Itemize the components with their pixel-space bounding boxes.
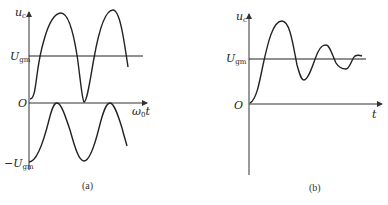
panel-b: uc Ugm O t (b): [226, 10, 382, 194]
panel-b-caption: (b): [309, 182, 321, 194]
waveform-figure: uc Ugm O ω0t −Ugm (a) uc Ugm O t (b): [0, 0, 388, 205]
panel-b-x-axis-label: t: [372, 108, 377, 121]
panel-b-ugm-label: Ugm: [226, 52, 247, 66]
panel-a-origin-label: O: [18, 97, 27, 110]
panel-b-y-axis-label: uc: [236, 10, 247, 24]
figure-canvas: uc Ugm O ω0t −Ugm (a) uc Ugm O t (b): [0, 0, 388, 205]
panel-a-x-axis-label: ω0t: [132, 105, 150, 119]
panel-a-ugm-label: Ugm: [10, 50, 31, 64]
panel-b-damped-response: [250, 21, 362, 103]
panel-a-y-axis-label: uc: [15, 6, 26, 20]
panel-a-lower-waveform: [29, 103, 127, 162]
panel-a: uc Ugm O ω0t −Ugm (a): [4, 6, 150, 192]
panel-b-origin-label: O: [234, 99, 243, 112]
panel-a-caption: (a): [82, 180, 93, 192]
